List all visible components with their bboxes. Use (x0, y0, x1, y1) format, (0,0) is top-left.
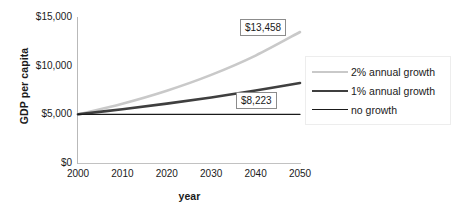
x-axis-tick-label: 2030 (188, 168, 234, 180)
x-axis-tick-label: 2000 (55, 168, 101, 180)
gdp-growth-line-chart: GDP per capita $0$5,000$10,000$15,000 20… (0, 0, 456, 214)
legend-swatch-icon (312, 90, 348, 92)
x-axis-tick-label: 2040 (233, 168, 279, 180)
y-axis-tick-label: $5,000 (16, 109, 72, 119)
data-label-2pct-endpoint: $13,458 (240, 19, 286, 36)
series-lines (78, 17, 300, 163)
x-axis-tick-labels: 200020102020203020402050 (78, 168, 301, 182)
chart-legend: 2% annual growth1% annual growthno growt… (305, 56, 451, 125)
legend-swatch-icon (312, 109, 348, 110)
legend-item: no growth (312, 100, 446, 119)
legend-item: 1% annual growth (312, 81, 446, 100)
legend-item-label: no growth (351, 104, 397, 116)
x-axis-tick-label: 2010 (99, 168, 145, 180)
x-axis-line (78, 163, 301, 164)
x-axis-tick-label: 2050 (277, 168, 323, 180)
legend-item: 2% annual growth (312, 62, 446, 81)
plot-area (78, 17, 300, 163)
x-axis-title: year (78, 190, 301, 202)
y-axis-tick-labels: $0$5,000$10,000$15,000 (10, 0, 72, 214)
legend-item-label: 1% annual growth (351, 85, 435, 97)
x-axis-tick-label: 2020 (144, 168, 190, 180)
y-axis-tick-label: $10,000 (16, 61, 72, 71)
data-label-1pct-endpoint: $8,223 (236, 92, 277, 109)
legend-item-label: 2% annual growth (351, 66, 435, 78)
legend-swatch-icon (312, 71, 348, 73)
y-axis-tick-label: $0 (16, 158, 72, 168)
y-axis-tick-label: $15,000 (16, 12, 72, 22)
